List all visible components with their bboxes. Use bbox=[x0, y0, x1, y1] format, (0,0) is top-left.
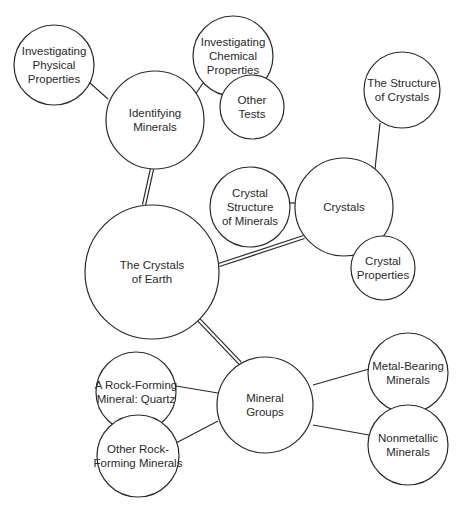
bubble-label: Mineral: Quartz bbox=[97, 393, 176, 405]
bubble-outline bbox=[351, 236, 415, 300]
bubble-label: Crystal bbox=[365, 255, 401, 267]
bubble-outline bbox=[85, 205, 219, 339]
bubble-layer: The Crystalsof EarthIdentifyingMineralsI… bbox=[14, 16, 448, 497]
connector-crystals-of-earth-to-identifying-minerals bbox=[144, 169, 152, 205]
bubble-label: Identifying bbox=[129, 107, 181, 119]
bubble-label: Properties bbox=[28, 73, 81, 85]
bubble-label: Physical bbox=[33, 59, 76, 71]
bubble-crystal-structure-of-minerals: CrystalStructureof Minerals bbox=[210, 167, 290, 247]
bubble-label: Other bbox=[238, 94, 267, 106]
bubble-label: Minerals bbox=[386, 446, 430, 458]
bubble-label: Properties bbox=[357, 269, 410, 281]
bubble-label: Mineral bbox=[246, 392, 284, 404]
bubble-outline bbox=[106, 71, 204, 169]
bubble-label: Nonmetallic bbox=[378, 432, 438, 444]
bubble-label: Properties bbox=[207, 64, 260, 76]
bubble-label: of Earth bbox=[132, 273, 172, 285]
connector-mineral-groups-to-other-rock-forming bbox=[176, 421, 218, 443]
bubble-label: of Minerals bbox=[222, 215, 278, 227]
bubble-mineral-groups: MineralGroups bbox=[217, 357, 313, 453]
bubble-label: Investigating bbox=[22, 45, 87, 57]
bubble-label: Investigating bbox=[201, 36, 266, 48]
bubble-label: Structure bbox=[227, 201, 274, 213]
bubble-crystal-properties: CrystalProperties bbox=[351, 236, 415, 300]
bubble-label: Minerals bbox=[386, 374, 430, 386]
bubble-label: Chemical bbox=[209, 50, 257, 62]
connector-mineral-groups-to-nonmetallic bbox=[313, 425, 369, 435]
bubble-outline bbox=[368, 405, 448, 485]
bubble-label: The Structure bbox=[367, 77, 437, 89]
bubble-structure-of-crystals: The Structureof Crystals bbox=[364, 52, 440, 128]
bubble-investigating-physical-properties: InvestigatingPhysicalProperties bbox=[14, 25, 94, 105]
concept-map: The Crystalsof EarthIdentifyingMineralsI… bbox=[0, 0, 461, 516]
bubble-label: Minerals bbox=[133, 121, 177, 133]
bubble-outline bbox=[97, 415, 179, 497]
bubble-other-tests: OtherTests bbox=[220, 75, 284, 139]
bubble-identifying-minerals: IdentifyingMinerals bbox=[106, 71, 204, 169]
bubble-label: The Crystals bbox=[120, 259, 185, 271]
bubble-crystals-of-earth: The Crystalsof Earth bbox=[85, 205, 219, 339]
bubble-label: Forming Minerals bbox=[94, 457, 183, 469]
bubble-outline bbox=[368, 333, 448, 413]
bubble-metal-bearing: Metal-BearingMinerals bbox=[368, 333, 448, 413]
connector-crystals-of-earth-to-mineral-groups bbox=[199, 320, 240, 363]
connector-mineral-groups-to-rock-forming-quartz bbox=[176, 386, 218, 393]
bubble-outline bbox=[217, 357, 313, 453]
bubble-label: Metal-Bearing bbox=[372, 360, 444, 372]
bubble-label: of Crystals bbox=[375, 91, 430, 103]
bubble-label: Tests bbox=[239, 108, 266, 120]
connector-crystals-to-structure-of-crystals bbox=[375, 123, 380, 169]
connector-mineral-groups-to-metal-bearing bbox=[313, 369, 369, 385]
bubble-label: Crystals bbox=[323, 201, 365, 213]
bubble-nonmetallic: NonmetallicMinerals bbox=[368, 405, 448, 485]
bubble-label: Groups bbox=[246, 406, 284, 418]
connector-identifying-minerals-to-investigating-physical-properties bbox=[90, 83, 108, 99]
bubble-outline bbox=[220, 75, 284, 139]
bubble-label: A Rock-Forming bbox=[95, 379, 177, 391]
bubble-other-rock-forming: Other Rock-Forming Minerals bbox=[94, 415, 183, 497]
bubble-outline bbox=[364, 52, 440, 128]
bubble-label: Other Rock- bbox=[107, 443, 169, 455]
bubble-label: Crystal bbox=[232, 187, 268, 199]
